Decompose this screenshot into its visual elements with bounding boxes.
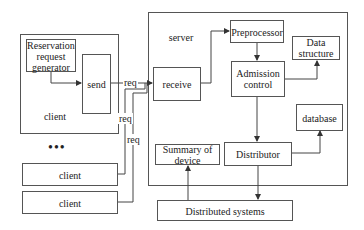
req-label-client2: req bbox=[118, 113, 133, 124]
req-label-send: req bbox=[123, 77, 138, 88]
connector-lines bbox=[0, 0, 364, 230]
req-label-client3: req bbox=[126, 134, 141, 145]
